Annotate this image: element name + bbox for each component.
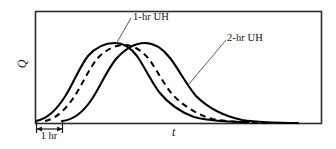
x-axis-label: t	[172, 126, 175, 138]
callout-label-2hr-uh: 2-hr UH	[227, 33, 263, 44]
duration-dimension-label: 1 hr	[33, 131, 65, 142]
figure-canvas: Q t 1-hr UH 2-hr UH 1 hr	[0, 0, 336, 149]
plot-frame	[36, 12, 322, 124]
y-axis-label: Q	[16, 55, 28, 73]
callout-label-1hr-uh: 1-hr UH	[133, 12, 169, 23]
